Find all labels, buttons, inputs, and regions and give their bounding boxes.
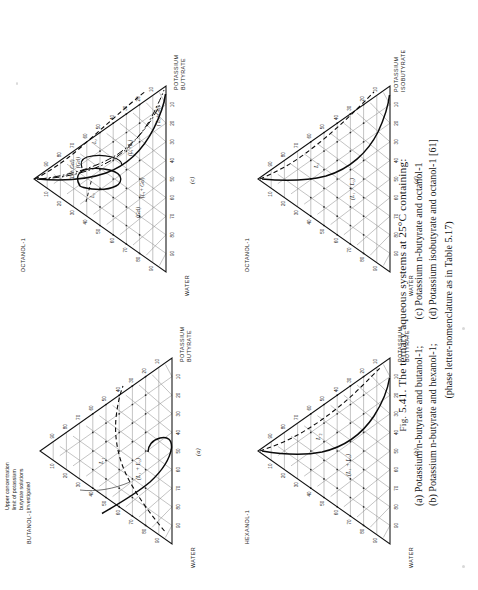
panel-letter-c: (c) <box>188 177 195 184</box>
phase-label-Gel2-c: (Gel) <box>135 207 142 218</box>
caption-fig-number: 5.41. <box>396 390 408 413</box>
svg-text:30: 30 <box>347 377 352 383</box>
ternary-diagram-c: L₂ (L₂+ Gel) (Gel) L₁ (L₁+L₂) (L₁+ Gel) … <box>34 86 166 272</box>
svg-text:50: 50 <box>96 124 101 130</box>
svg-text:40: 40 <box>116 386 121 392</box>
svg-text:40: 40 <box>307 219 312 225</box>
svg-text:60: 60 <box>116 510 121 516</box>
phase-label-L2-c: L₂ <box>89 193 95 199</box>
tick-labels-b: 10 20 30 40 50 60 70 80 90 90 80 70 60 5… <box>268 359 399 543</box>
caption-col-left: (a) Potassium n-butyrate and butanol-1; … <box>412 343 440 506</box>
svg-text:20: 20 <box>176 392 181 398</box>
caption-item-d: (d) Potassium isobutyrate and octanol-1 … <box>426 139 440 319</box>
svg-text:80: 80 <box>136 256 141 262</box>
ternary-svg-d: L₂ (L₁ + L₂) 10 20 30 40 50 60 70 80 90 … <box>258 86 390 272</box>
caption-fig-prefix: Fig. <box>398 416 408 432</box>
svg-text:20: 20 <box>142 368 147 374</box>
scanned-page-frame: L 1 (L₁ + L₂) 10 20 30 40 50 60 70 80 <box>0 0 478 590</box>
annotation-a: Upper concentration limit of potassium b… <box>4 410 32 510</box>
svg-text:20: 20 <box>57 200 62 206</box>
svg-text:80: 80 <box>281 424 286 430</box>
svg-text:20: 20 <box>63 472 68 478</box>
phase-label-L1Gel2-c: ( L₁+Gel) <box>155 105 162 126</box>
svg-text:10: 10 <box>176 374 181 380</box>
svg-text:10: 10 <box>170 102 175 108</box>
svg-text:50: 50 <box>176 448 181 454</box>
figure-caption: Fig. 5.41. The ternary aqueous systems a… <box>396 60 454 530</box>
svg-text:20: 20 <box>136 96 141 102</box>
svg-text:80: 80 <box>170 232 175 238</box>
svg-text:40: 40 <box>334 114 339 120</box>
svg-text:70: 70 <box>347 247 352 253</box>
svg-text:60: 60 <box>170 195 175 201</box>
svg-text:10: 10 <box>373 87 378 93</box>
svg-text:2: 2 <box>318 434 323 436</box>
svg-text:80: 80 <box>360 256 365 262</box>
caption-col-right: (c) Potassium n-butyrate and octanol-1 (… <box>412 139 440 319</box>
ternary-svg-b: L 2 (L₁ + L₂) 10 20 30 40 50 60 70 80 90 <box>258 358 390 544</box>
svg-text:30: 30 <box>129 377 134 383</box>
svg-text:50: 50 <box>320 124 325 130</box>
phase-label-L2: L <box>315 436 321 441</box>
panel-c: L₂ (L₂+ Gel) (Gel) L₁ (L₁+L₂) (L₁+ Gel) … <box>4 52 204 302</box>
svg-text:90: 90 <box>149 265 154 271</box>
phase-label-L1L2: (L₁ + L₂) <box>345 454 352 476</box>
svg-text:80: 80 <box>142 528 147 534</box>
caption-item-c: (c) Potassium n-butyrate and octanol-1 <box>412 139 426 319</box>
svg-text:60: 60 <box>110 238 115 244</box>
svg-text:80: 80 <box>281 152 286 158</box>
svg-text:10: 10 <box>268 191 273 197</box>
svg-text:30: 30 <box>170 139 175 145</box>
grid-lines-c <box>47 93 166 266</box>
phase-labels-d: L₂ (L₁ + L₂) <box>313 163 356 200</box>
phase-label-L1L2-d: (L₁ + L₂) <box>349 178 356 200</box>
phase-labels-a: L 1 (L₁ + L₂) <box>98 458 142 480</box>
scan-speck <box>462 327 465 330</box>
left-vertex-label-c: WATER <box>184 275 191 296</box>
ternary-diagram-d: L₂ (L₁ + L₂) 10 20 30 40 50 60 70 80 90 … <box>258 86 390 272</box>
svg-text:80: 80 <box>57 152 62 158</box>
svg-text:60: 60 <box>89 405 94 411</box>
svg-text:30: 30 <box>294 482 299 488</box>
upper-limit-dashed-c <box>35 91 146 179</box>
svg-text:90: 90 <box>268 433 273 439</box>
scan-speck <box>16 82 18 85</box>
svg-text:50: 50 <box>320 396 325 402</box>
svg-text:10: 10 <box>155 359 160 365</box>
svg-text:20: 20 <box>170 120 175 126</box>
phase-label-L1L2-c: (L₁+L₂) <box>127 139 134 156</box>
svg-text:90: 90 <box>50 433 55 439</box>
binodal-curve-c <box>37 94 166 180</box>
svg-text:20: 20 <box>281 200 286 206</box>
grid-nodes-c <box>99 104 140 255</box>
svg-text:30: 30 <box>347 105 352 111</box>
left-vertex-label-a: WATER <box>190 547 197 568</box>
svg-text:50: 50 <box>320 500 325 506</box>
svg-text:50: 50 <box>320 228 325 234</box>
svg-text:80: 80 <box>63 424 68 430</box>
ternary-diagram-b: L 2 (L₁ + L₂) 10 20 30 40 50 60 70 80 90 <box>258 358 390 544</box>
book-page: L 1 (L₁ + L₂) 10 20 30 40 50 60 70 80 <box>0 0 478 590</box>
svg-text:90: 90 <box>155 537 160 543</box>
tick-labels-d: 10 20 30 40 50 60 70 80 90 90 80 70 60 5… <box>268 87 399 271</box>
svg-text:40: 40 <box>334 386 339 392</box>
svg-text:90: 90 <box>373 537 378 543</box>
svg-text:50: 50 <box>102 500 107 506</box>
scan-speck <box>462 565 465 568</box>
gel-inner-boundary-c <box>81 156 122 169</box>
grid-lines-d <box>271 93 390 266</box>
svg-text:80: 80 <box>176 504 181 510</box>
right-vertex-label-c: POTASSIUM BUTYRATE <box>173 44 186 90</box>
svg-text:30: 30 <box>294 210 299 216</box>
caption-note: (phase letter-nomenclature as in Table 5… <box>443 60 454 560</box>
svg-text:70: 70 <box>170 213 175 219</box>
svg-text:90: 90 <box>268 161 273 167</box>
phase-label-L1L2: (L₁ + L₂) <box>135 458 142 480</box>
phase-label-Gel-c: (Gel) <box>75 157 82 168</box>
right-vertex-label-a: POTASSIUM BUTYRATE <box>179 316 192 362</box>
svg-text:30: 30 <box>70 210 75 216</box>
svg-text:60: 60 <box>83 133 88 139</box>
apex-label-b: HEXANOL-1 <box>244 490 251 564</box>
svg-text:30: 30 <box>176 411 181 417</box>
svg-text:60: 60 <box>307 133 312 139</box>
